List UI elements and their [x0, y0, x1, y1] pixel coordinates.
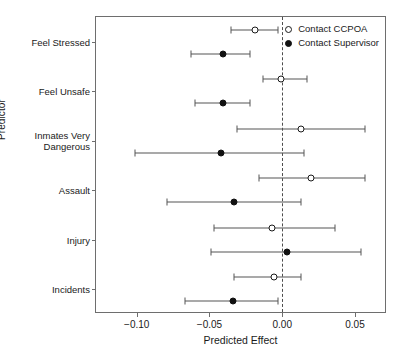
- interval-cap: [135, 149, 136, 156]
- interval-cap: [306, 76, 307, 83]
- legend-item-supervisor: Contact Supervisor: [285, 36, 379, 50]
- interval-cap: [184, 298, 185, 305]
- zero-reference-line: [282, 17, 283, 312]
- legend-item-ccpoa: Contact CCPOA: [285, 22, 379, 36]
- interval-cap: [277, 26, 278, 33]
- x-axis-title: Predicted Effect: [204, 334, 278, 346]
- data-point-marker: [277, 76, 284, 83]
- interval-cap: [194, 100, 195, 107]
- interval-cap: [334, 224, 335, 231]
- data-point-marker: [298, 125, 305, 132]
- filled-circle-icon: [285, 40, 292, 47]
- plot-area: Feel StressedFeel UnsafeInmates Very Dan…: [95, 16, 386, 313]
- interval-cap: [231, 26, 232, 33]
- interval-cap: [167, 199, 168, 206]
- data-point-marker: [270, 274, 277, 281]
- interval-cap: [365, 175, 366, 182]
- data-point-marker: [308, 175, 315, 182]
- interval-cap: [360, 248, 361, 255]
- interval-cap: [210, 248, 211, 255]
- interval-cap: [234, 274, 235, 281]
- interval-cap: [237, 125, 238, 132]
- legend: Contact CCPOA Contact Supervisor: [285, 22, 379, 50]
- y-tick-mark: [92, 91, 96, 92]
- y-tick-label: Feel Stressed: [4, 36, 90, 47]
- data-point-marker: [283, 248, 290, 255]
- x-tick-mark: [137, 312, 138, 317]
- x-tick-label: 0.05: [345, 319, 364, 330]
- interval-cap: [365, 125, 366, 132]
- interval-cap: [301, 199, 302, 206]
- x-tick-label: −0.05: [197, 319, 222, 330]
- y-tick-mark: [92, 289, 96, 290]
- x-tick-mark: [209, 312, 210, 317]
- confidence-interval: [234, 277, 301, 278]
- y-tick-label: Incidents: [4, 284, 90, 295]
- data-point-marker: [269, 224, 276, 231]
- interval-cap: [301, 274, 302, 281]
- data-point-marker: [231, 199, 238, 206]
- interval-cap: [250, 100, 251, 107]
- y-tick-label: Inmates Very Dangerous: [4, 130, 90, 152]
- data-point-marker: [251, 26, 258, 33]
- confidence-interval: [263, 79, 307, 80]
- open-circle-icon: [285, 26, 292, 33]
- y-tick-label: Injury: [4, 234, 90, 245]
- data-point-marker: [219, 100, 226, 107]
- interval-cap: [258, 175, 259, 182]
- interval-cap: [190, 50, 191, 57]
- interval-cap: [277, 298, 278, 305]
- data-point-marker: [229, 298, 236, 305]
- data-point-marker: [219, 50, 226, 57]
- legend-label: Contact Supervisor: [298, 36, 379, 50]
- data-point-marker: [218, 149, 225, 156]
- x-tick-label: −0.10: [124, 319, 149, 330]
- interval-cap: [304, 149, 305, 156]
- y-tick-label: Feel Unsafe: [4, 86, 90, 97]
- y-tick-label: Assault: [4, 185, 90, 196]
- x-tick-mark: [282, 312, 283, 317]
- y-tick-mark: [92, 42, 96, 43]
- interval-cap: [250, 50, 251, 57]
- y-tick-mark: [92, 141, 96, 142]
- interval-cap: [263, 76, 264, 83]
- y-tick-mark: [92, 240, 96, 241]
- legend-label: Contact CCPOA: [298, 22, 367, 36]
- x-tick-label: 0.00: [273, 319, 292, 330]
- y-tick-mark: [92, 190, 96, 191]
- x-tick-mark: [355, 312, 356, 317]
- interval-cap: [213, 224, 214, 231]
- chart-figure: Predictor Feel StressedFeel UnsafeInmate…: [0, 0, 398, 351]
